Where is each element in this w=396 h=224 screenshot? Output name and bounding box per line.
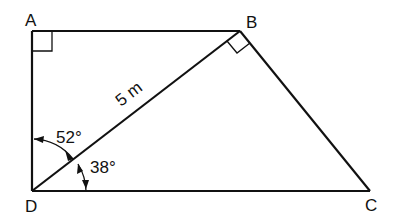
trapezium-diagram: A B C D 5 m 52° 38° [0,0,396,224]
vertex-label-c: C [365,196,377,215]
vertex-label-a: A [25,11,37,30]
arrowhead-icon [82,180,89,189]
angle-label-38: 38° [90,158,116,177]
right-angle-marker-b [227,41,250,53]
vertex-label-d: D [25,197,37,216]
diagonal-db [32,31,240,191]
vertex-label-b: B [246,13,257,32]
side-bc [240,31,370,191]
angle-label-52: 52° [56,128,82,147]
arrowhead-icon [65,150,73,161]
arrowhead-icon [34,136,44,143]
right-angle-marker-a [32,31,52,51]
diagonal-length-label: 5 m [112,78,146,110]
